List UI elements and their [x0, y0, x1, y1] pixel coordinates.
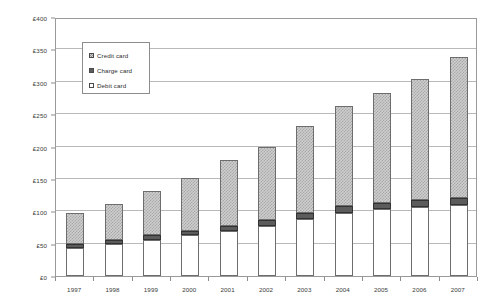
x-tick-mark — [170, 277, 171, 281]
stacked-bar-chart: £0£50£100£150£200£250£300£350£400 199719… — [0, 0, 500, 307]
bar-group — [373, 93, 391, 276]
x-tick-mark — [285, 277, 286, 281]
bar-segment-charge — [335, 206, 353, 212]
bar-segment-credit — [296, 126, 314, 213]
legend-item-charge[interactable]: Charge card — [89, 63, 144, 77]
bar-segment-charge — [143, 235, 161, 240]
bar-segment-credit — [66, 213, 84, 245]
bar-segment-credit — [105, 204, 123, 240]
x-tick-mark — [400, 277, 401, 281]
bar-group — [181, 178, 199, 276]
bar-group — [411, 79, 429, 276]
x-tick-label: 2004 — [336, 286, 350, 293]
x-tick-label: 2002 — [259, 286, 273, 293]
x-tick-mark — [208, 277, 209, 281]
bar-segment-debit — [258, 226, 276, 277]
x-tick-mark — [132, 277, 133, 281]
bar-group — [220, 160, 238, 276]
x-tick-label: 2003 — [297, 286, 311, 293]
bar-group — [335, 106, 353, 276]
y-tick-label: £100 — [33, 209, 47, 216]
bar-segment-credit — [181, 178, 199, 231]
x-tick-label: 2006 — [412, 286, 426, 293]
bar-segment-charge — [258, 220, 276, 226]
bar-group — [258, 147, 276, 277]
bar-segment-charge — [220, 226, 238, 231]
x-tick-label: 1998 — [105, 286, 119, 293]
chart-legend: Credit cardCharge cardDebit card — [82, 42, 150, 94]
x-tick-mark — [477, 277, 478, 281]
x-tick-mark — [439, 277, 440, 281]
x-tick-label: 2007 — [451, 286, 465, 293]
y-tick-label: £200 — [33, 144, 47, 151]
bar-segment-debit — [373, 209, 391, 276]
y-tick-label: £350 — [33, 47, 47, 54]
bar-group — [296, 126, 314, 276]
legend-item-label: Credit card — [97, 52, 128, 59]
bar-group — [143, 191, 161, 276]
x-tick-mark — [324, 277, 325, 281]
bar-segment-credit — [335, 106, 353, 206]
bar-segment-debit — [335, 213, 353, 276]
bar-group — [450, 57, 468, 276]
x-tick-label: 2001 — [221, 286, 235, 293]
x-tick-mark — [247, 277, 248, 281]
x-tick-mark — [55, 277, 56, 281]
y-tick-label: £0 — [40, 274, 47, 281]
legend-item-credit[interactable]: Credit card — [89, 48, 144, 62]
legend-item-debit[interactable]: Debit card — [89, 78, 144, 92]
bar-group — [66, 213, 84, 276]
bar-segment-debit — [143, 240, 161, 276]
bar-segment-debit — [66, 248, 84, 276]
y-tick-label: £150 — [33, 176, 47, 183]
bar-segment-debit — [450, 205, 468, 276]
x-tick-label: 1999 — [144, 286, 158, 293]
x-tick-label: 2005 — [374, 286, 388, 293]
x-tick-mark — [362, 277, 363, 281]
y-tick-label: £400 — [33, 15, 47, 22]
bar-segment-charge — [105, 240, 123, 244]
bar-segment-credit — [373, 93, 391, 203]
x-tick-label: 1997 — [67, 286, 81, 293]
credit-swatch-icon — [89, 53, 94, 58]
charge-swatch-icon — [89, 68, 94, 73]
bar-segment-charge — [373, 203, 391, 209]
y-axis: £0£50£100£150£200£250£300£350£400 — [0, 0, 55, 307]
x-axis: 1997199819992000200120022003200420052006… — [55, 277, 477, 307]
bar-segment-debit — [411, 207, 429, 276]
bar-segment-debit — [181, 235, 199, 276]
bar-segment-debit — [296, 219, 314, 276]
y-tick-label: £300 — [33, 79, 47, 86]
bar-segment-charge — [411, 200, 429, 207]
legend-item-label: Debit card — [97, 82, 126, 89]
bar-segment-charge — [296, 213, 314, 219]
bar-segment-credit — [450, 57, 468, 198]
bar-segment-credit — [258, 147, 276, 220]
bar-segment-charge — [450, 198, 468, 205]
debit-swatch-icon — [89, 83, 94, 88]
bar-segment-charge — [66, 244, 84, 248]
legend-item-label: Charge card — [97, 67, 132, 74]
x-tick-mark — [93, 277, 94, 281]
bar-segment-debit — [105, 244, 123, 276]
bar-segment-charge — [181, 231, 199, 236]
y-tick-label: £50 — [36, 241, 47, 248]
bar-segment-debit — [220, 231, 238, 276]
bar-segment-credit — [411, 79, 429, 201]
bar-group — [105, 204, 123, 276]
y-tick-label: £250 — [33, 112, 47, 119]
x-tick-label: 2000 — [182, 286, 196, 293]
bar-segment-credit — [143, 191, 161, 236]
bar-segment-credit — [220, 160, 238, 225]
